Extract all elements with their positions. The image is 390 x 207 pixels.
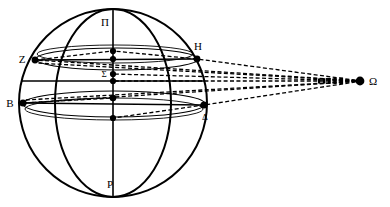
label-point-delta: Δ xyxy=(202,112,208,122)
axis-node-3 xyxy=(110,71,116,77)
label-observer-omega: Ω xyxy=(369,75,377,87)
conv-mark xyxy=(323,78,325,83)
label-point-h: H xyxy=(194,40,202,52)
point-z-dot xyxy=(32,57,39,64)
label-south-pole: P xyxy=(107,178,113,190)
celestial-sphere-diagram: Π P Σ Z H B Δ Ω xyxy=(0,0,390,207)
axis-node-4 xyxy=(110,78,116,84)
axis-node-5 xyxy=(110,95,117,102)
label-point-b: B xyxy=(6,97,13,109)
label-north-pole: Π xyxy=(101,16,109,28)
conv-mark xyxy=(346,79,349,82)
point-b-dot xyxy=(19,99,26,106)
conv-mark xyxy=(334,78,337,84)
point-delta-dot xyxy=(200,101,207,108)
conv-mark xyxy=(318,79,320,84)
conv-mark xyxy=(328,78,331,84)
axis-node-2 xyxy=(110,56,116,62)
point-h-dot xyxy=(194,56,201,63)
axis-node-1 xyxy=(110,48,116,54)
label-center-sigma: Σ xyxy=(101,69,106,79)
observer-omega-dot xyxy=(356,77,365,86)
label-point-z: Z xyxy=(19,53,26,65)
conv-mark xyxy=(352,80,355,83)
conv-mark xyxy=(340,78,344,85)
axis-node-6 xyxy=(110,115,116,121)
diagram-canvas: Π P Σ Z H B Δ Ω xyxy=(0,0,390,207)
